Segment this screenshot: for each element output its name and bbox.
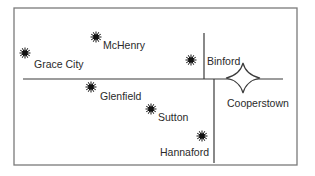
burst-icon bbox=[197, 131, 208, 142]
burst-icon bbox=[186, 55, 197, 66]
burst-icon bbox=[146, 104, 157, 115]
burst-icon bbox=[20, 48, 31, 59]
four-point-star-icon bbox=[226, 63, 260, 93]
town-label: Cooperstown bbox=[227, 98, 289, 109]
map-frame bbox=[14, 8, 297, 165]
burst-icon bbox=[91, 32, 102, 43]
map: McHenryGrace CityBinfordGlenfieldSuttonH… bbox=[0, 0, 315, 176]
map-canvas bbox=[0, 0, 315, 176]
town-label: McHenry bbox=[103, 40, 145, 51]
town-label: Grace City bbox=[34, 59, 84, 70]
town-label: Binford bbox=[207, 56, 240, 67]
town-label: Glenfield bbox=[100, 91, 141, 102]
town-label: Sutton bbox=[158, 112, 188, 123]
burst-icon bbox=[86, 82, 97, 93]
capital-marker bbox=[226, 63, 260, 93]
town-label: Hannaford bbox=[160, 147, 209, 158]
